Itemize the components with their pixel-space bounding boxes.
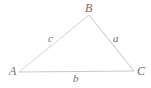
- triangle-side-c-line: [19, 15, 89, 72]
- triangle-side-a-line: [89, 15, 134, 71]
- side-label-c: c: [48, 33, 53, 44]
- side-label-a: a: [113, 33, 119, 44]
- triangle-figure: A B C c a b: [0, 0, 151, 88]
- side-label-b: b: [73, 73, 79, 84]
- vertex-label-a: A: [9, 65, 16, 77]
- vertex-label-c: C: [137, 65, 145, 77]
- vertex-label-b: B: [85, 2, 92, 14]
